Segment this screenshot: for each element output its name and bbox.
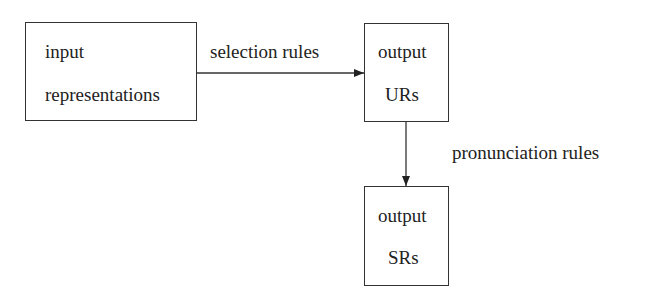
node-input-line1: input [45, 42, 84, 61]
node-input-line2: representations [45, 85, 160, 104]
node-urs-line2: URs [385, 85, 419, 104]
node-urs-line1: output [378, 42, 427, 61]
edge-label-pronunciation-rules: pronunciation rules [452, 143, 599, 162]
node-input-representations [25, 22, 197, 121]
node-srs-line1: output [378, 206, 427, 225]
node-srs-line2: SRs [388, 248, 419, 267]
node-output-urs [364, 23, 449, 122]
edge-label-selection-rules: selection rules [210, 42, 319, 61]
node-output-srs [364, 186, 449, 286]
